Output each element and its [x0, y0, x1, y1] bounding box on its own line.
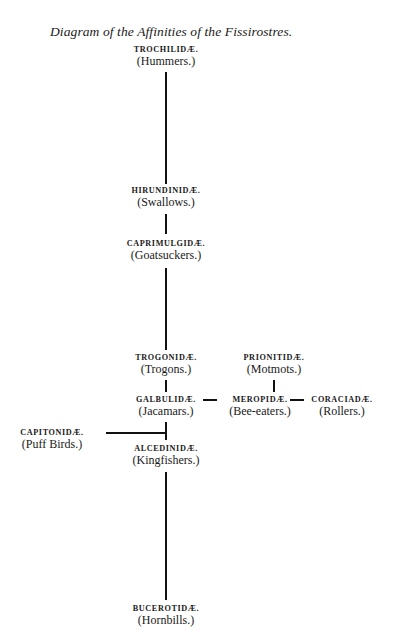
common-name: (Hummers.)	[134, 55, 199, 68]
node-hirundinidae: HIRUNDINIDÆ. (Swallows.)	[132, 185, 201, 209]
node-meropidae: MEROPIDÆ. (Bee-eaters.)	[229, 394, 291, 418]
edge-prionitidae-meropidae	[273, 380, 275, 392]
edge-trochilidae-hirundinidae	[165, 72, 167, 184]
common-name: (Motmots.)	[244, 363, 305, 376]
common-name: (Bee-eaters.)	[229, 405, 291, 418]
common-name: (Hornbills.)	[133, 614, 199, 627]
common-name: (Jacamars.)	[136, 405, 196, 418]
node-trochilidae: TROCHILIDÆ. (Hummers.)	[134, 44, 199, 68]
node-prionitidae: PRIONITIDÆ. (Motmots.)	[244, 352, 305, 376]
node-galbulidae: GALBULIDÆ. (Jacamars.)	[136, 394, 196, 418]
node-bucerotidae: BUCEROTIDÆ. (Hornbills.)	[133, 603, 199, 627]
edge-meropidae-coraciadae	[290, 399, 304, 401]
edge-hirundinidae-caprimulgidae	[165, 214, 167, 234]
edge-trogonidae-galbulidae	[165, 380, 167, 392]
diagram-title: Diagram of the Affinities of the Fissiro…	[50, 24, 292, 40]
common-name: (Kingfishers.)	[133, 454, 200, 467]
edge-capitonidae-alcedinidae	[106, 432, 166, 434]
edge-alcedinidae-bucerotidae	[165, 472, 167, 600]
common-name: (Rollers.)	[311, 405, 372, 418]
common-name: (Puff Birds.)	[20, 438, 84, 451]
node-coraciadae: CORACIADÆ. (Rollers.)	[311, 394, 372, 418]
common-name: (Trogons.)	[135, 363, 197, 376]
edge-galbulidae-meropidae	[203, 399, 217, 401]
edge-galbulidae-alcedinidae	[165, 422, 167, 440]
edge-caprimulgidae-trogonidae	[165, 268, 167, 350]
node-trogonidae: TROGONIDÆ. (Trogons.)	[135, 352, 197, 376]
common-name: (Swallows.)	[132, 196, 201, 209]
common-name: (Goatsuckers.)	[127, 249, 206, 262]
node-capitonidae: CAPITONIDÆ. (Puff Birds.)	[20, 427, 84, 451]
node-alcedinidae: ALCEDINIDÆ. (Kingfishers.)	[133, 443, 200, 467]
node-caprimulgidae: CAPRIMULGIDÆ. (Goatsuckers.)	[127, 238, 206, 262]
